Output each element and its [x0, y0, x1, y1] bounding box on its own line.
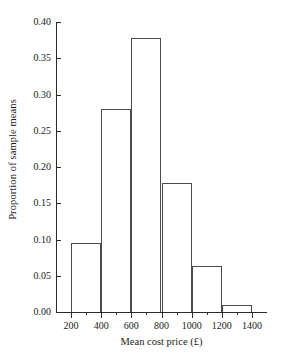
x-axis-tick-mark	[131, 312, 132, 318]
histogram-figure: Proportion of sample means 0.000.050.100…	[0, 0, 282, 361]
x-axis-tick-label: 1000	[182, 321, 202, 331]
x-axis-tick-label: 1400	[242, 321, 262, 331]
y-axis-tick-label: 0.00	[34, 307, 52, 317]
x-axis-tick-mark	[101, 312, 102, 318]
y-axis-tick-mark	[57, 312, 61, 313]
y-axis-tick-mark	[57, 167, 61, 168]
x-axis-tick-mark	[222, 312, 223, 318]
y-axis-title: Proportion of sample means	[0, 0, 24, 318]
x-axis-minor-tick-mark	[177, 312, 178, 315]
y-axis-tick-label: 0.30	[34, 90, 52, 100]
y-axis-tick-mark	[57, 203, 61, 204]
y-axis-tick-label: 0.15	[34, 198, 52, 208]
x-axis-minor-tick-mark	[116, 312, 117, 315]
x-axis-tick-mark	[192, 312, 193, 318]
y-axis-title-label: Proportion of sample means	[7, 99, 18, 220]
y-axis-tick-label: 0.20	[34, 162, 52, 172]
y-axis-tick-mark	[57, 95, 61, 96]
histogram-bar	[222, 305, 252, 312]
histogram-bar	[131, 38, 161, 312]
histogram-bar	[162, 183, 192, 312]
x-axis-tick-mark	[162, 312, 163, 318]
x-axis-minor-tick-mark	[237, 312, 238, 315]
histogram-bar	[71, 243, 101, 312]
histogram-bar	[192, 266, 222, 312]
y-axis-tick-mark	[57, 240, 61, 241]
y-axis-tick-mark	[57, 58, 61, 59]
x-axis-minor-tick-mark	[146, 312, 147, 315]
x-axis-minor-tick-mark	[86, 312, 87, 315]
y-axis-tick-mark	[57, 22, 61, 23]
x-axis-tick-mark	[71, 312, 72, 318]
y-axis-tick-mark	[57, 276, 61, 277]
y-axis-tick-label: 0.40	[34, 17, 52, 27]
y-axis-tick-label: 0.10	[34, 235, 52, 245]
x-axis-minor-tick-mark	[207, 312, 208, 315]
y-axis-tick-label: 0.35	[34, 53, 52, 63]
x-axis-tick-mark	[252, 312, 253, 318]
plot-area: 0.000.050.100.150.200.250.300.350.40 200…	[56, 22, 267, 313]
y-axis-tick-label: 0.05	[34, 271, 52, 281]
x-axis-title: Mean cost price (£)	[56, 336, 267, 347]
x-axis-tick-label: 200	[64, 321, 79, 331]
x-axis-tick-label: 600	[124, 321, 139, 331]
y-axis-tick-label: 0.25	[34, 126, 52, 136]
y-axis-tick-mark	[57, 131, 61, 132]
x-axis-title-label: Mean cost price (£)	[121, 336, 203, 347]
x-axis-tick-label: 400	[94, 321, 109, 331]
x-axis-tick-label: 1200	[212, 321, 232, 331]
histogram-bar	[101, 109, 131, 312]
x-axis-tick-label: 800	[154, 321, 169, 331]
